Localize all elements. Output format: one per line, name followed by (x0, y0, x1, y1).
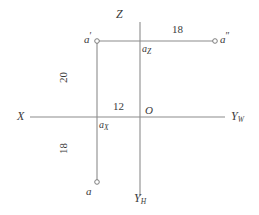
point-label-a-text: a (86, 185, 92, 197)
axis-label-yw: YW (231, 110, 244, 123)
dimension-18-bottom-text: 18 (57, 143, 69, 154)
dimension-12-center: 12 (113, 101, 124, 112)
axis-label-z: Z (116, 8, 123, 20)
axis-foot-label-ax-subscript: X (104, 123, 109, 132)
dimension-18-top-text: 18 (172, 23, 183, 35)
dimension-20-left-text: 20 (57, 72, 69, 83)
axis-foot-label-ax: aX (99, 120, 109, 131)
point-label-a: a (86, 186, 92, 197)
axis-label-x: X (17, 110, 24, 122)
axis-foot-label-az: aZ (142, 44, 151, 55)
dimension-20-left: 20 (58, 72, 69, 83)
point-marker-a-double-prime (213, 39, 218, 44)
point-label-a-double-prime-mark: ″ (226, 30, 230, 41)
axis-label-yh-text: Y (134, 191, 141, 205)
axis-label-z-text: Z (116, 7, 123, 21)
axis-label-x-text: X (17, 109, 24, 123)
point-marker-a (95, 180, 100, 185)
point-label-a-prime-mark: ′ (90, 30, 92, 41)
dimension-18-bottom: 18 (58, 143, 69, 154)
point-marker-a-prime (95, 39, 100, 44)
dimension-12-center-text: 12 (113, 100, 124, 112)
projection-diagram: Z X YW YH O a′ a″ a aZ aX 18 20 12 18 (0, 0, 259, 215)
dimension-18-top: 18 (172, 24, 183, 35)
point-label-a-double-prime: a″ (220, 31, 230, 45)
axis-label-yw-text: Y (231, 109, 238, 123)
axis-label-yw-subscript: W (238, 115, 244, 124)
axis-label-yh: YH (134, 192, 146, 205)
axis-foot-label-az-subscript: Z (147, 47, 151, 56)
origin-label: O (145, 105, 153, 116)
origin-label-text: O (145, 104, 153, 116)
point-label-a-prime: a′ (84, 31, 92, 45)
axis-label-yh-subscript: H (141, 197, 146, 206)
